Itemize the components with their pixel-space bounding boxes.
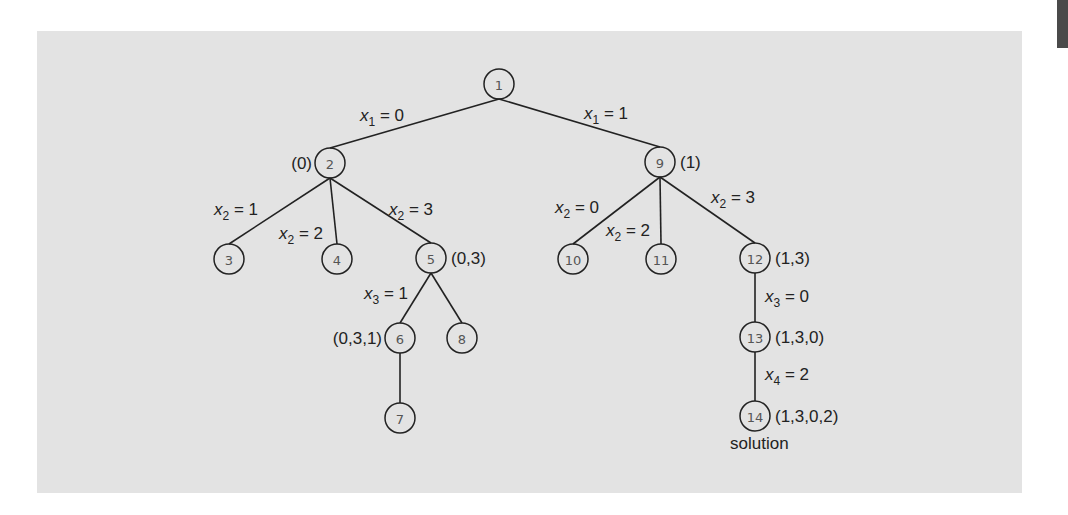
tree-node-10: 10	[558, 244, 588, 274]
edge-label-var: x	[554, 198, 564, 217]
node-state-label: (1,3,0,2)	[775, 407, 838, 426]
edge-label: x2 = 1	[213, 200, 258, 223]
edge-label: x2 = 2	[605, 221, 650, 244]
node-number: 7	[396, 412, 404, 427]
edge-label-value: = 0	[570, 198, 599, 217]
tree-node-7: 7	[385, 403, 415, 433]
edge-label: x2 = 3	[710, 188, 755, 211]
edge-label-value: = 1	[379, 284, 408, 303]
node-state-label: (0)	[291, 154, 312, 173]
edge-label-var: x	[764, 365, 774, 384]
edge-label-value: = 0	[780, 287, 809, 306]
edge-label: x1 = 1	[583, 104, 628, 127]
edge-label-var: x	[278, 224, 288, 243]
tree-node-2: 2	[315, 148, 345, 178]
edge-label-value: = 1	[229, 200, 258, 219]
tree-node-11: 11	[646, 244, 676, 274]
tree-edge	[660, 177, 755, 243]
edge-label-value: = 2	[294, 224, 323, 243]
node-number: 12	[747, 252, 764, 267]
edge-labels: x1 = 0x1 = 1x2 = 1x2 = 2x2 = 3x2 = 0x2 =…	[213, 104, 809, 388]
tree-node-5: 5	[416, 243, 446, 273]
node-state-labels: (0)(1)(0,3)(1,3)(0,3,1)(1,3,0)(1,3,0,2)	[291, 153, 838, 426]
tree-edge	[330, 178, 337, 244]
node-number: 11	[653, 253, 670, 268]
edge-label-var: x	[764, 287, 774, 306]
edge-label-value: = 2	[621, 221, 650, 240]
tree-edge	[431, 273, 462, 323]
tree-edge	[330, 99, 499, 148]
tree-edge	[660, 177, 661, 244]
tree-node-12: 12	[740, 243, 770, 273]
edge-label-value: = 1	[599, 104, 628, 123]
edge-label-value: = 2	[780, 365, 809, 384]
tree-edge	[499, 99, 660, 147]
node-number: 10	[565, 253, 582, 268]
tree-node-14: 14	[740, 401, 770, 431]
edge-label: x3 = 0	[764, 287, 809, 310]
edge-label: x1 = 0	[359, 106, 404, 129]
node-number: 2	[326, 157, 334, 172]
node-state-label: (1,3,0)	[775, 328, 824, 347]
node-state-label: (1)	[680, 153, 701, 172]
edge-label: x2 = 2	[278, 224, 323, 247]
edge-label-value: = 3	[404, 200, 433, 219]
tree-node-9: 9	[645, 147, 675, 177]
edge-label-var: x	[710, 188, 720, 207]
edge-label: x4 = 2	[764, 365, 809, 388]
edge-label-var: x	[359, 106, 369, 125]
edge-label-var: x	[388, 200, 398, 219]
tree-nodes: 1293451011126871314	[214, 69, 770, 433]
tree-node-8: 8	[447, 323, 477, 353]
tree-node-13: 13	[740, 322, 770, 352]
node-number: 8	[458, 332, 466, 347]
edge-label-var: x	[363, 284, 373, 303]
node-number: 14	[747, 410, 764, 425]
edge-label: x3 = 1	[363, 284, 408, 307]
tree-node-4: 4	[322, 244, 352, 274]
tree-node-6: 6	[385, 323, 415, 353]
node-number: 9	[656, 156, 664, 171]
solution-label: solution	[730, 434, 789, 453]
tree-edges	[229, 99, 755, 403]
annotations: solution	[730, 434, 789, 453]
node-number: 13	[747, 331, 764, 346]
node-number: 1	[495, 78, 503, 93]
node-state-label: (1,3)	[775, 249, 810, 268]
edge-label-value: = 3	[726, 188, 755, 207]
node-state-label: (0,3)	[451, 249, 486, 268]
node-number: 3	[225, 253, 233, 268]
edge-label-var: x	[213, 200, 223, 219]
edge-label: x2 = 0	[554, 198, 599, 221]
edge-label-var: x	[583, 104, 593, 123]
node-number: 5	[427, 252, 435, 267]
edge-label-var: x	[605, 221, 615, 240]
edge-label-value: = 0	[375, 106, 404, 125]
node-state-label: (0,3,1)	[333, 329, 382, 348]
state-space-tree: x1 = 0x1 = 1x2 = 1x2 = 2x2 = 3x2 = 0x2 =…	[0, 0, 1068, 515]
tree-node-3: 3	[214, 244, 244, 274]
tree-node-1: 1	[484, 69, 514, 99]
node-number: 6	[396, 332, 404, 347]
node-number: 4	[333, 253, 341, 268]
